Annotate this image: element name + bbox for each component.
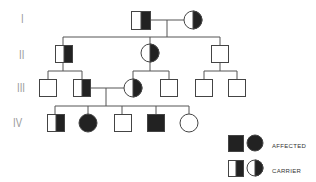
gen2-male-carrier	[56, 46, 73, 63]
generation-label-1: I	[21, 12, 24, 26]
legend-affected-circle	[247, 135, 263, 151]
gen4-male-unaffected	[115, 115, 132, 132]
gen1-female-carrier	[184, 11, 202, 29]
gen3-female-carrier	[124, 79, 142, 97]
gen3-male-unaffected	[196, 80, 213, 97]
gen3-male-carrier	[74, 80, 91, 97]
legend-carrier-square	[229, 161, 244, 177]
gen2-male-unaffected	[212, 46, 229, 63]
legend-carrier-circle	[247, 160, 263, 176]
legend-affected-label: AFFECTED	[272, 143, 306, 149]
gen4-male-carrier	[48, 115, 65, 132]
gen4-male-affected	[148, 115, 165, 132]
gen1-male-carrier	[132, 12, 151, 30]
gen4-female-unaffected	[180, 114, 198, 132]
legend-affected-square	[229, 136, 244, 152]
gen3-male-unaffected	[161, 80, 178, 97]
legend-carrier-label: CARRIER	[272, 168, 301, 174]
generation-label-3: III	[17, 81, 25, 95]
gen4-female-affected	[79, 114, 97, 132]
gen2-female-carrier	[141, 44, 159, 62]
pedigree-chart	[0, 0, 316, 182]
gen3-male-unaffected	[229, 80, 246, 97]
gen3-male-unaffected	[40, 80, 57, 97]
generation-label-2: II	[19, 48, 24, 62]
generation-label-4: IV	[13, 116, 22, 130]
